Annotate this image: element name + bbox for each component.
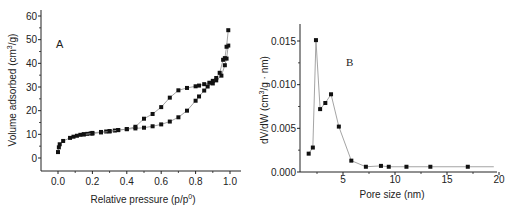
data-point-marker	[211, 79, 215, 83]
y-tick-label: 60	[26, 11, 38, 22]
data-point-marker	[206, 85, 210, 89]
data-point-marker	[168, 96, 172, 100]
data-point-marker	[108, 129, 112, 133]
data-point-marker	[142, 126, 146, 130]
y-tick-label: 20	[26, 105, 38, 116]
chart-b: 51015200.0000.0050.0100.015 B Pore size …	[258, 24, 505, 200]
data-point-marker	[318, 107, 322, 111]
y-tick-label: 0.015	[271, 36, 296, 47]
data-point-marker	[364, 165, 368, 169]
y-tick-label: 0.005	[271, 123, 296, 134]
chart-a-y-axis-title: Volume adsorbed (cm3/g)	[6, 34, 18, 147]
data-point-marker	[151, 124, 155, 128]
data-point-marker	[185, 86, 189, 90]
chart-a-series	[56, 28, 230, 154]
y-tick-label: 0.010	[271, 79, 296, 90]
data-point-marker	[159, 122, 163, 126]
data-point-marker	[428, 165, 432, 169]
series-line	[309, 40, 494, 167]
data-point-marker	[379, 164, 383, 168]
data-point-marker	[202, 89, 206, 93]
data-point-marker	[349, 159, 353, 163]
data-point-marker	[226, 28, 230, 32]
x-tick-label: 0.6	[154, 176, 168, 187]
x-tick-label: 15	[441, 174, 453, 185]
data-point-marker	[99, 130, 103, 134]
chart-a: 0.00.20.40.60.81.00102030405060 A Relati…	[6, 10, 241, 205]
chart-b-axes: 51015200.0000.0050.0100.015	[271, 24, 505, 185]
data-point-marker	[159, 105, 163, 109]
data-point-marker	[202, 82, 206, 86]
y-tick-label: 30	[26, 82, 38, 93]
data-point-marker	[323, 101, 327, 105]
data-point-marker	[71, 135, 75, 139]
data-point-marker	[58, 142, 62, 146]
y-tick-label: 0.000	[271, 167, 296, 178]
x-tick-label: 0.0	[51, 176, 65, 187]
x-tick-label: 0.2	[85, 176, 99, 187]
data-point-marker	[116, 128, 120, 132]
data-point-marker	[133, 125, 137, 129]
data-point-marker	[221, 58, 225, 62]
data-point-marker	[466, 165, 470, 169]
data-point-marker	[61, 139, 65, 143]
data-point-marker	[197, 84, 201, 88]
y-tick-label: 50	[26, 34, 38, 45]
data-point-marker	[225, 45, 229, 49]
chart-a-panel-label: A	[56, 38, 64, 50]
data-point-marker	[311, 146, 315, 150]
chart-b-series	[307, 38, 494, 169]
x-tick-label: 0.4	[120, 176, 134, 187]
data-point-marker	[314, 38, 318, 42]
data-point-marker	[214, 76, 218, 80]
x-tick-label: 10	[389, 174, 401, 185]
data-point-marker	[176, 115, 180, 119]
series-line	[84, 30, 228, 134]
data-point-marker	[194, 99, 198, 103]
data-point-marker	[125, 127, 129, 131]
data-point-marker	[151, 112, 155, 116]
x-tick-label: 0.8	[189, 176, 203, 187]
chart-b-y-axis-title: dV/dW (cm3/g · nm)	[258, 56, 270, 144]
x-tick-label: 5	[340, 174, 346, 185]
data-point-marker	[82, 132, 86, 136]
data-point-marker	[68, 136, 72, 140]
chart-b-panel-label: B	[346, 56, 353, 68]
data-point-marker	[75, 134, 79, 138]
chart-a-x-axis-title: Relative pressure (p/p0)	[90, 193, 195, 205]
data-point-marker	[176, 88, 180, 92]
data-point-marker	[168, 120, 172, 124]
data-point-marker	[307, 152, 311, 156]
data-point-marker	[329, 92, 333, 96]
data-point-marker	[185, 109, 189, 113]
chart-a-axes: 0.00.20.40.60.81.00102030405060	[26, 10, 241, 187]
y-tick-label: 0	[31, 153, 37, 164]
data-point-marker	[207, 81, 211, 85]
data-point-marker	[387, 165, 391, 169]
data-point-marker	[197, 94, 201, 98]
data-point-marker	[142, 117, 146, 121]
data-point-marker	[223, 63, 227, 67]
data-point-marker	[78, 133, 82, 137]
y-tick-label: 40	[26, 58, 38, 69]
data-point-marker	[218, 71, 222, 75]
chart-b-x-axis-title: Pore size (nm)	[359, 189, 424, 200]
data-point-marker	[404, 165, 408, 169]
y-tick-label: 10	[26, 129, 38, 140]
x-tick-label: 20	[493, 174, 505, 185]
figure: 0.00.20.40.60.81.00102030405060 A Relati…	[0, 0, 509, 216]
data-point-marker	[90, 132, 94, 136]
data-point-marker	[56, 150, 60, 154]
data-point-marker	[337, 125, 341, 129]
x-tick-label: 1.0	[223, 176, 237, 187]
data-point-marker	[194, 84, 198, 88]
